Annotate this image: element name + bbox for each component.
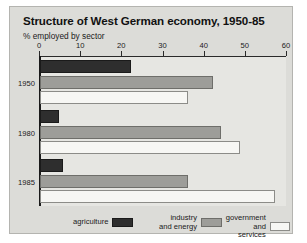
x-tick <box>163 51 164 56</box>
y-axis-label-1980: 1980 <box>9 129 35 138</box>
x-tick-label: 20 <box>117 41 125 50</box>
x-tick <box>245 51 246 56</box>
legend-swatch-industry <box>201 218 222 227</box>
legend-item-industry: industryand energy <box>159 214 222 231</box>
legend-item-government: governmentand services <box>225 214 290 240</box>
chart-legend: agriculture industryand energy governmen… <box>39 212 286 234</box>
y-axis-label-1985: 1985 <box>9 178 35 187</box>
x-tick <box>121 51 122 56</box>
legend-swatch-agriculture <box>112 218 133 227</box>
x-tick-label: 50 <box>241 41 249 50</box>
bar-government-and-services-1985 <box>40 190 275 203</box>
legend-item-agriculture: agriculture <box>73 218 133 227</box>
x-axis-line <box>39 56 286 57</box>
legend-label-industry: industryand energy <box>159 214 197 231</box>
x-tick <box>204 51 205 56</box>
bar-agriculture-1985 <box>40 159 63 172</box>
legend-label-government: governmentand services <box>225 214 266 240</box>
chart-figure: Structure of West German economy, 1950-8… <box>9 6 293 234</box>
x-tick-label: 0 <box>37 41 41 50</box>
bar-industry-and-energy-1980 <box>40 126 221 139</box>
bar-government-and-services-1980 <box>40 141 240 154</box>
chart-subtitle: % employed by sector <box>23 31 105 41</box>
bar-industry-and-energy-1985 <box>40 175 188 188</box>
x-tick-label: 40 <box>199 41 207 50</box>
bar-agriculture-1980 <box>40 110 59 123</box>
plot-area: 0102030405060 195019801985 <box>39 56 286 206</box>
legend-label-industry-line2: and energy <box>159 222 197 231</box>
x-tick <box>80 51 81 56</box>
legend-label-government-line2: and services <box>238 222 266 240</box>
x-tick <box>39 51 40 56</box>
chart-title: Structure of West German economy, 1950-8… <box>23 14 265 27</box>
y-axis-label-1950: 1950 <box>9 79 35 88</box>
x-tick-label: 60 <box>282 41 290 50</box>
bar-agriculture-1950 <box>40 60 131 73</box>
x-tick-label: 10 <box>76 41 84 50</box>
legend-label-agriculture: agriculture <box>73 218 108 227</box>
bar-industry-and-energy-1950 <box>40 76 213 89</box>
legend-swatch-government <box>270 222 290 231</box>
x-tick-label: 30 <box>158 41 166 50</box>
x-tick <box>286 51 287 56</box>
bar-government-and-services-1950 <box>40 91 188 104</box>
